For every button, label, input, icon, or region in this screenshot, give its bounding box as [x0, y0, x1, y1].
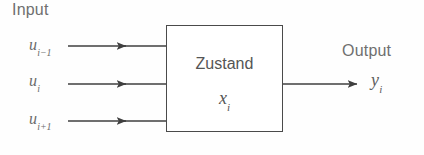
block-diagram-canvas: Input ui−1 ui ui+1 Zustand xi Output yi: [0, 0, 424, 155]
input-label-subscript: i−1: [37, 47, 51, 58]
input-section-caption: Input: [12, 1, 49, 19]
input-label-base: u: [29, 72, 37, 89]
input-label-u-i-plus-1: ui+1: [29, 110, 51, 130]
state-variable-label: xi: [166, 88, 283, 111]
input-label-subscript: i+1: [37, 121, 51, 132]
state-variable-subscript: i: [227, 101, 230, 113]
output-label-y-i: yi: [371, 70, 382, 93]
input-label-base: u: [29, 36, 37, 53]
output-label-base: y: [371, 70, 379, 90]
state-block-title: Zustand: [166, 55, 283, 73]
input-label-subscript: i: [37, 83, 40, 94]
state-block-rectangle: [166, 25, 283, 132]
input-label-base: u: [29, 110, 37, 127]
output-section-caption: Output: [342, 42, 391, 60]
input-label-u-i-minus-1: ui−1: [29, 36, 51, 56]
output-label-subscript: i: [379, 83, 382, 95]
state-variable-base: x: [219, 88, 227, 108]
input-label-u-i: ui: [29, 72, 40, 92]
